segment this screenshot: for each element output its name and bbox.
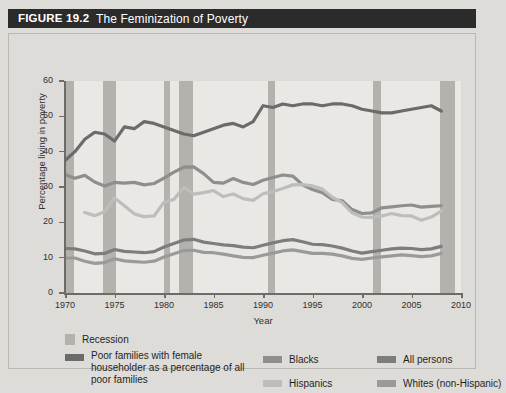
legend-column-3: All persons Whites (non-Hispanic) xyxy=(377,350,506,393)
figure-header-bar: FIGURE 19.2 The Feminization of Poverty xyxy=(8,9,476,28)
chart-panel: 0102030405060 19701975198019851990199520… xyxy=(8,33,476,369)
x-tick xyxy=(263,293,265,298)
x-tick-label: 1975 xyxy=(95,300,135,310)
x-tick-label: 1990 xyxy=(243,300,283,310)
x-tick xyxy=(362,293,364,298)
y-tick-label: 0 xyxy=(31,287,53,297)
series-line xyxy=(65,167,441,214)
y-axis-title: Percentage living in poverty xyxy=(36,72,47,232)
y-tick-label: 10 xyxy=(31,252,53,262)
chart-lines xyxy=(65,81,461,293)
all-persons-swatch xyxy=(377,356,396,363)
legend-label-whites: Whites (non-Hispanic) xyxy=(403,378,501,390)
x-tick-label: 1980 xyxy=(144,300,184,310)
legend-label-all-persons: All persons xyxy=(403,354,452,366)
legend-label-female-householder: Poor families with female householder as… xyxy=(91,350,251,386)
x-tick xyxy=(313,293,315,298)
x-tick-label: 1970 xyxy=(45,300,85,310)
legend-item-recession: Recession xyxy=(65,330,129,348)
x-tick xyxy=(412,293,414,298)
x-tick-label: 1995 xyxy=(293,300,333,310)
legend-column-2: Blacks Hispanics xyxy=(263,350,383,393)
x-tick xyxy=(164,293,166,298)
y-axis-line xyxy=(64,81,66,294)
legend-item-whites: Whites (non-Hispanic) xyxy=(377,374,506,392)
plot-area xyxy=(65,81,461,293)
female-householder-swatch xyxy=(65,354,84,361)
legend-item-blacks: Blacks xyxy=(263,350,383,368)
figure-number-label: FIGURE 19.2 xyxy=(18,12,89,24)
whites-swatch xyxy=(377,380,396,387)
hispanics-swatch xyxy=(263,380,282,387)
series-line xyxy=(65,104,441,161)
recession-swatch xyxy=(65,334,75,345)
legend-label-hispanics: Hispanics xyxy=(289,378,332,390)
y-tick xyxy=(59,222,64,224)
y-tick xyxy=(59,186,64,188)
legend-item-hispanics: Hispanics xyxy=(263,374,383,392)
x-tick xyxy=(214,293,216,298)
x-tick xyxy=(65,293,67,298)
legend-item-female-householder: Poor families with female householder as… xyxy=(65,350,265,386)
figure-title: The Feminization of Poverty xyxy=(96,12,248,26)
x-tick-label: 2010 xyxy=(441,300,481,310)
y-tick xyxy=(59,151,64,153)
y-tick xyxy=(59,116,64,118)
y-tick xyxy=(59,292,64,294)
x-tick xyxy=(115,293,117,298)
series-line xyxy=(85,185,441,221)
x-axis-title: Year xyxy=(65,315,461,326)
x-tick-label: 2005 xyxy=(392,300,432,310)
x-tick-label: 1985 xyxy=(194,300,234,310)
series-line xyxy=(65,239,441,253)
y-tick xyxy=(59,80,64,82)
y-tick xyxy=(59,257,64,259)
blacks-swatch xyxy=(263,356,282,363)
legend-label-blacks: Blacks xyxy=(289,354,318,366)
legend-item-all-persons: All persons xyxy=(377,350,506,368)
legend-label-recession: Recession xyxy=(82,334,129,346)
x-tick-label: 2000 xyxy=(342,300,382,310)
legend-column-1: Poor families with female householder as… xyxy=(65,350,265,386)
x-tick xyxy=(461,293,463,298)
